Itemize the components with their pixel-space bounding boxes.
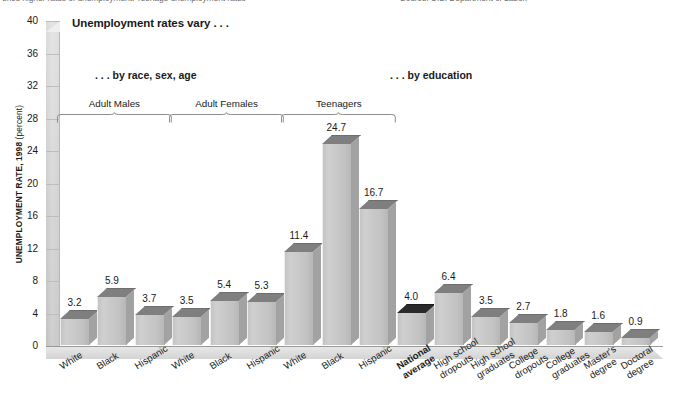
group-label-1: Adult Females	[169, 98, 284, 109]
bar-front-face	[284, 252, 314, 345]
bar-front-face	[322, 144, 352, 345]
y-axis-tick-32: 32	[16, 80, 38, 91]
wall-tick-12	[46, 249, 60, 250]
bar-front-face	[172, 317, 202, 345]
bar-value-label: 3.5	[180, 295, 194, 306]
wall-tick-24	[46, 151, 60, 152]
group-bracket-2	[281, 112, 396, 123]
bar-value-label: 3.2	[68, 297, 82, 308]
bar-side-face	[313, 245, 321, 345]
bar-value-label: 4.0	[404, 291, 418, 302]
bar-front-face	[397, 313, 427, 346]
bar-side-face	[426, 305, 434, 345]
y-axis-tick-24: 24	[16, 145, 38, 156]
caption-column-right: Source: U.S. Department of Labor.	[400, 0, 527, 3]
bar-front-face	[135, 315, 165, 345]
bar-value-label: 16.7	[364, 187, 383, 198]
bar-side-face	[463, 286, 471, 345]
bar-side-face	[126, 290, 134, 345]
bar-value-label: 0.9	[629, 316, 643, 327]
bar-value-label: 24.7	[327, 122, 346, 133]
bar-hispanic-8[interactable]: 16.7	[359, 209, 388, 345]
wall-tick-32	[46, 86, 60, 87]
bar-college-graduates-13[interactable]: 1.8	[546, 330, 575, 345]
bar-value-label: 3.5	[479, 295, 493, 306]
bar-side-face	[201, 309, 209, 345]
bar-hispanic-5[interactable]: 5.3	[247, 302, 276, 345]
group-bracket-1	[169, 112, 284, 123]
bar-value-label: 6.4	[442, 271, 456, 282]
caption-column-left: ence higher rates of unemployment. Teena…	[2, 0, 246, 3]
bar-national-average-9[interactable]: 4.0	[397, 313, 426, 346]
bar-value-label: 5.3	[255, 280, 269, 291]
bar-value-label: 3.7	[142, 293, 156, 304]
wall-tick-20	[46, 184, 60, 185]
bar-front-face	[60, 319, 90, 345]
bar-high-school-dropouts-10[interactable]: 6.4	[434, 293, 463, 345]
wall-tick-8	[46, 281, 60, 282]
bar-value-label: 1.6	[591, 310, 605, 321]
wall-tick-36	[46, 54, 60, 55]
group-label-2: Teenagers	[281, 98, 396, 109]
bar-front-face	[546, 330, 576, 345]
y-axis-tick-16: 16	[16, 210, 38, 221]
wall-tick-40	[46, 21, 60, 22]
bar-master-s-degree-14[interactable]: 1.6	[584, 332, 613, 345]
bar-front-face	[247, 302, 277, 345]
group-label-0: Adult Males	[57, 98, 172, 109]
bar-front-face	[210, 301, 240, 345]
bar-front-face	[434, 293, 464, 345]
bar-value-label: 1.8	[554, 308, 568, 319]
y-axis-tick-40: 40	[16, 15, 38, 26]
bar-side-face	[388, 202, 396, 345]
unemployment-bar-chart: Unemployment rates vary . . . . . . by r…	[0, 11, 675, 409]
bar-black-4[interactable]: 5.4	[210, 301, 239, 345]
y-axis-tick-36: 36	[16, 48, 38, 59]
y-axis-tick-8: 8	[16, 275, 38, 286]
group-bracket-0	[57, 112, 172, 123]
bar-front-face	[97, 297, 127, 345]
bar-black-7[interactable]: 24.7	[322, 144, 351, 345]
bar-side-face	[351, 137, 359, 345]
bar-value-label: 5.9	[105, 275, 119, 286]
bar-side-face	[538, 316, 546, 345]
y-axis-tick-20: 20	[16, 178, 38, 189]
bar-front-face	[584, 332, 614, 345]
plot-area: 3.25.93.73.55.45.311.424.716.74.06.43.52…	[46, 21, 663, 358]
bar-side-face	[164, 308, 172, 345]
y-axis-tick-12: 12	[16, 243, 38, 254]
wall-tick-4	[46, 314, 60, 315]
bar-hispanic-2[interactable]: 3.7	[135, 315, 164, 345]
bar-value-label: 5.4	[217, 279, 231, 290]
bar-side-face	[276, 295, 284, 345]
wall-tick-16	[46, 216, 60, 217]
bar-white-0[interactable]: 3.2	[60, 319, 89, 345]
y-axis-tick-28: 28	[16, 113, 38, 124]
top-caption-strip: ence higher rates of unemployment. Teena…	[0, 0, 675, 11]
y-axis-tick-0: 0	[16, 340, 38, 351]
bar-white-3[interactable]: 3.5	[172, 317, 201, 345]
bar-white-6[interactable]: 11.4	[284, 252, 313, 345]
bar-front-face	[359, 209, 389, 345]
bar-side-face	[89, 312, 97, 345]
bar-value-label: 2.7	[516, 301, 530, 312]
bar-black-1[interactable]: 5.9	[97, 297, 126, 345]
y-axis-tick-4: 4	[16, 308, 38, 319]
bar-value-label: 11.4	[290, 230, 309, 241]
